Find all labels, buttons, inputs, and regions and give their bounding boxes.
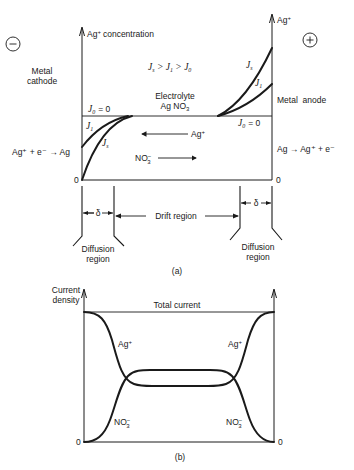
caption-b: (b) bbox=[175, 452, 186, 462]
figure-b: Current density 0 0 Total current Ag+ Ag… bbox=[52, 285, 283, 462]
left-axis-label: Ag+concentration bbox=[87, 29, 154, 39]
diffusion-left-label-2: region bbox=[86, 254, 110, 264]
drift-region-indicator: Drift region bbox=[115, 211, 239, 221]
diffusion-right-label-2: region bbox=[246, 252, 270, 262]
metal-cathode-label-2: cathode bbox=[27, 76, 58, 86]
diffusion-left-label-1: Diffusion bbox=[82, 244, 115, 254]
ag-migration-label: Ag+ bbox=[191, 129, 205, 139]
delta-right: δ bbox=[254, 198, 259, 208]
cathode-reaction: Ag⁺ + e⁻ → Ag bbox=[12, 147, 70, 157]
left-j1-label: J1 bbox=[86, 121, 93, 132]
ag-label-left: Ag+ bbox=[118, 339, 132, 349]
electrolysis-diagram: Ag+concentration Ag+ 0 0 Metal cathode M… bbox=[0, 0, 354, 470]
zero-label-right: 0 bbox=[276, 175, 281, 185]
total-current-label: Total current bbox=[154, 300, 201, 310]
no3-migration-label: NO−3 bbox=[135, 153, 152, 165]
current-inequality: Js > J1 > J0 bbox=[148, 62, 191, 73]
electrolyte-formula: Ag NO3 bbox=[161, 101, 191, 112]
cathode-sign bbox=[6, 37, 20, 51]
no3-label-left: NO−3 bbox=[114, 417, 131, 429]
right-axis-label: Ag+ bbox=[277, 15, 291, 25]
zero-label-left: 0 bbox=[74, 175, 79, 185]
caption-a: (a) bbox=[172, 266, 183, 276]
anode-reaction: Ag → Ag⁺ + e⁻ bbox=[277, 144, 335, 154]
right-diffusion-bracket: δ bbox=[230, 186, 282, 240]
j0-label-right: J0= 0 bbox=[238, 118, 261, 129]
zero-label-right-b: 0 bbox=[278, 437, 283, 447]
ag-current-curve bbox=[84, 312, 274, 386]
left-js-label: Js bbox=[102, 138, 109, 149]
no3-current-curve bbox=[84, 370, 274, 442]
zero-label-left-b: 0 bbox=[76, 437, 81, 447]
figure-a: Ag+concentration Ag+ 0 0 Metal cathode M… bbox=[6, 14, 335, 276]
delta-left: δ bbox=[96, 208, 101, 218]
no3-label-right: NO−3 bbox=[226, 417, 243, 429]
drift-region-label: Drift region bbox=[155, 211, 197, 221]
metal-cathode-label-1: Metal bbox=[32, 66, 53, 76]
y-axis-label-2: density bbox=[53, 295, 81, 305]
anode-sign bbox=[303, 33, 317, 47]
right-js-label: Js bbox=[246, 60, 253, 71]
diffusion-right-label-1: Diffusion bbox=[242, 242, 275, 252]
right-j1-label: J1 bbox=[255, 78, 262, 89]
electrolyte-label: Electrolyte bbox=[155, 91, 195, 101]
j0-label-left: J0= 0 bbox=[88, 104, 111, 115]
y-axis-label-1: Current bbox=[52, 285, 81, 295]
metal-anode-label: Metal anode bbox=[277, 95, 326, 105]
ag-label-right: Ag+ bbox=[228, 339, 242, 349]
